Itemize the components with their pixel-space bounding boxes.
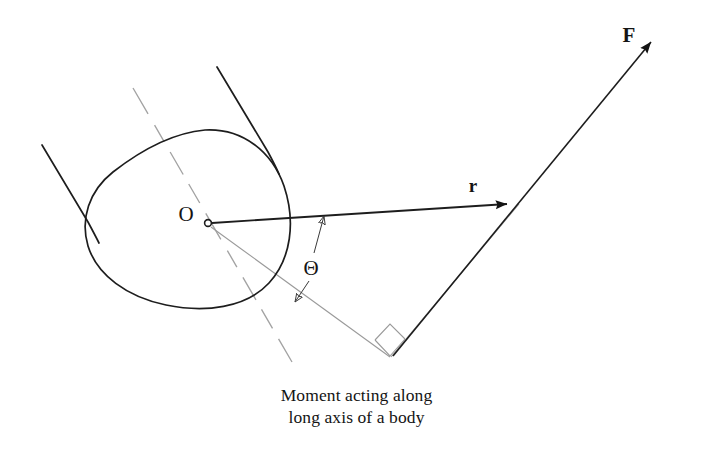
moment-arm-label: r [469, 175, 478, 196]
caption-line-2: long axis of a body [0, 406, 713, 428]
pivot-point-marker [205, 220, 212, 227]
theta-leader-lower [295, 281, 309, 302]
figure-caption: Moment acting along long axis of a body [0, 384, 713, 429]
right-angle-marker-inner [375, 324, 405, 340]
theta-leader-upper [314, 216, 324, 253]
limb-line-left [42, 145, 99, 243]
force-vector-line [393, 42, 651, 356]
force-label: F [623, 23, 636, 47]
figure-canvas: F r O Θ Moment acting along long axis of… [0, 0, 713, 455]
construction-line-pivot-to-vertex [211, 227, 390, 357]
caption-line-1: Moment acting along [0, 384, 713, 406]
angle-theta-label: Θ [303, 256, 318, 280]
moment-arm-vector-line [212, 204, 507, 223]
pivot-point-label: O [178, 202, 193, 226]
limb-line-right [217, 67, 279, 174]
